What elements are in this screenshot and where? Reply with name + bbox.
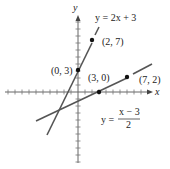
- y-axis-label: y: [72, 2, 78, 13]
- line-y-2x-plus-3: [47, 43, 92, 135]
- point-7-2: [125, 75, 129, 79]
- equation-2-numerator: x − 3: [119, 106, 140, 117]
- x-axis-arrow-icon: [147, 90, 153, 95]
- point-label-3-0: (3, 0): [88, 72, 110, 84]
- equation-2-label: y = x − 3 2: [101, 106, 140, 130]
- equation-1-label: y = 2x + 3: [95, 12, 136, 23]
- equation-2-lhs: y =: [101, 114, 115, 125]
- graph: y x y = 2x + 3 (2, 7) (0, 3) (3, 0) (7, …: [0, 0, 170, 169]
- point-0-3: [76, 68, 80, 72]
- line-y-x-minus-3-over-2-ext: [133, 64, 152, 74]
- y-axis-arrow-icon: [76, 15, 81, 21]
- x-axis-label: x: [154, 86, 160, 97]
- point-3-0: [97, 90, 101, 94]
- point-label-0-3: (0, 3): [51, 65, 73, 77]
- point-label-7-2: (7, 2): [139, 74, 161, 86]
- point-2-7: [90, 38, 94, 42]
- line-y-2x-plus-3-ext: [95, 27, 99, 35]
- equation-2-denominator: 2: [126, 119, 131, 130]
- point-label-2-7: (2, 7): [102, 36, 124, 48]
